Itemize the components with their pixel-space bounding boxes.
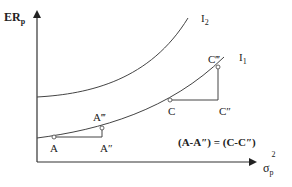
label-c: C bbox=[168, 106, 175, 117]
label-a-triple-prime: A‴ bbox=[93, 112, 106, 123]
x-axis-label: σp2 bbox=[263, 161, 277, 177]
point-c-triple-prime bbox=[216, 65, 220, 69]
point-c bbox=[168, 98, 172, 102]
triangle-c bbox=[170, 67, 218, 100]
diagram-canvas bbox=[0, 0, 292, 187]
point-a bbox=[52, 135, 56, 139]
indifference-curve-i1 bbox=[37, 57, 224, 138]
point-a-triple-prime bbox=[100, 126, 104, 130]
curve-label-i1: I1 bbox=[239, 52, 247, 66]
curve-label-i2: I2 bbox=[201, 13, 209, 27]
label-a-double-prime: A″ bbox=[100, 143, 113, 154]
indifference-curve-i2 bbox=[37, 18, 188, 97]
y-axis-label: ERp bbox=[4, 11, 25, 26]
label-c-double-prime: C″ bbox=[219, 106, 231, 117]
equation-label: (A-A″) = (C-C″) bbox=[178, 137, 256, 148]
triangle-a bbox=[54, 128, 102, 137]
label-c-triple-prime: C‴ bbox=[208, 54, 220, 65]
label-a: A bbox=[50, 143, 58, 154]
